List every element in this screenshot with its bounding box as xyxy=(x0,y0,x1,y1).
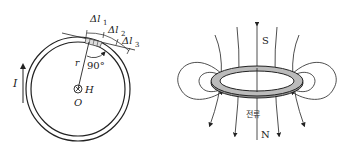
svg-text:Δl: Δl xyxy=(121,35,132,46)
svg-text:1: 1 xyxy=(103,19,107,27)
circular-current-diagram: I r 90° H O Δl 1 Δl 2 Δl 3 S N 전류 xyxy=(0,0,345,152)
angle-label: 90° xyxy=(87,60,105,71)
diagram-canvas: I r 90° H O Δl 1 Δl 2 Δl 3 S N 전류 xyxy=(0,0,345,152)
svg-text:3: 3 xyxy=(135,41,139,49)
center-label: O xyxy=(74,97,82,108)
svg-text:Δl: Δl xyxy=(107,24,118,35)
current-direction-label: 전류 xyxy=(246,109,260,119)
current-label: I xyxy=(12,77,18,90)
right-angle-arc xyxy=(87,53,104,58)
field-into-page-icon xyxy=(74,85,82,93)
north-pole-label: N xyxy=(261,129,270,140)
svg-text:Δl: Δl xyxy=(89,13,100,24)
segment-label-1: Δl 1 xyxy=(89,13,107,27)
south-pole-label: S xyxy=(262,35,269,46)
radius-label: r xyxy=(75,58,80,68)
segment-label-3: Δl 3 xyxy=(121,35,139,49)
field-label: H xyxy=(84,84,94,95)
